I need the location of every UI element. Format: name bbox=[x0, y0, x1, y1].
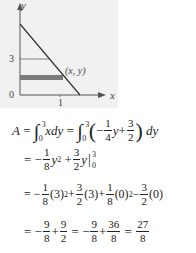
equals: = bbox=[67, 123, 74, 139]
evaluation-bar: |30 bbox=[88, 152, 91, 168]
differential: dy bbox=[146, 123, 158, 139]
denominator: 8 bbox=[91, 232, 97, 244]
region-graph: y x 0 3 1 (x, y) bbox=[0, 0, 118, 108]
minus: − bbox=[34, 187, 41, 202]
fraction: 18 bbox=[43, 147, 51, 172]
close-paren: ) bbox=[135, 120, 142, 142]
area-symbol: A bbox=[12, 123, 20, 139]
equals: = bbox=[125, 224, 132, 240]
denominator: 2 bbox=[77, 195, 83, 207]
minus: − bbox=[133, 187, 140, 202]
plus: + bbox=[64, 152, 71, 168]
strip bbox=[20, 75, 63, 80]
y-axis-label: y bbox=[21, 0, 26, 11]
numerator: 9 bbox=[90, 219, 98, 232]
denominator: 8 bbox=[44, 232, 50, 244]
denominator: 4 bbox=[105, 131, 111, 143]
origin-label: 0 bbox=[9, 90, 14, 100]
equals: = bbox=[24, 152, 31, 168]
numerator: 1 bbox=[42, 182, 50, 195]
plus: + bbox=[51, 224, 58, 240]
upper-limit: 3 bbox=[42, 121, 46, 129]
fraction: 18 bbox=[42, 182, 50, 207]
term: (0) bbox=[149, 187, 163, 202]
numerator: 1 bbox=[106, 182, 114, 195]
fraction: 92 bbox=[60, 219, 68, 244]
fraction: 32 bbox=[127, 118, 135, 143]
equals: = bbox=[24, 224, 31, 240]
fraction: 18 bbox=[106, 182, 114, 207]
upper-limit: 3 bbox=[92, 150, 96, 159]
numerator: 1 bbox=[104, 118, 112, 131]
upper-limit: 3 bbox=[85, 121, 89, 129]
equals: = bbox=[24, 187, 31, 202]
denominator: 2 bbox=[74, 160, 80, 172]
lower-limit: 0 bbox=[82, 135, 86, 143]
numerator: 9 bbox=[60, 219, 68, 232]
open-paren: ( bbox=[89, 120, 96, 142]
fraction: 98 bbox=[43, 219, 51, 244]
plus: + bbox=[68, 187, 75, 202]
equation-line-1: A = ∫30 xdy = ∫30 ( − 14 y + 32 ) dy bbox=[12, 118, 158, 143]
minus: − bbox=[82, 224, 89, 240]
fraction: 98 bbox=[90, 219, 98, 244]
minus: − bbox=[35, 152, 42, 168]
denominator: 8 bbox=[140, 232, 146, 244]
lower-limit: 0 bbox=[39, 135, 43, 143]
denominator: 8 bbox=[43, 195, 49, 207]
fraction: 32 bbox=[76, 182, 84, 207]
boundary-line bbox=[20, 24, 80, 95]
equation-line-3: = − 18 (3)2 + 32 (3) + 18 (0)2 − 32 (0) bbox=[24, 182, 163, 207]
exponent: 2 bbox=[57, 155, 61, 164]
fraction: 14 bbox=[104, 118, 112, 143]
integral-sign: ∫30 bbox=[77, 121, 82, 141]
plus: + bbox=[119, 123, 126, 139]
numerator: 3 bbox=[140, 182, 148, 195]
denominator: 8 bbox=[111, 232, 117, 244]
point-label: (x, y) bbox=[65, 66, 86, 76]
denominator: 2 bbox=[128, 131, 134, 143]
graph-svg bbox=[0, 0, 118, 108]
equals: = bbox=[23, 123, 30, 139]
x-tick-label: 1 bbox=[58, 98, 63, 108]
numerator: 9 bbox=[43, 219, 51, 232]
plus: + bbox=[98, 187, 105, 202]
fraction: 32 bbox=[73, 147, 81, 172]
equation-line-2: = − 18 y2 + 32 y |30 bbox=[24, 147, 91, 172]
minus: − bbox=[96, 123, 103, 139]
term: (0) bbox=[115, 187, 129, 202]
integrand: xdy bbox=[45, 123, 63, 139]
numerator: 1 bbox=[43, 147, 51, 160]
numerator: 27 bbox=[136, 219, 149, 232]
term: (3) bbox=[84, 187, 98, 202]
denominator: 2 bbox=[141, 195, 147, 207]
numerator: 36 bbox=[107, 219, 120, 232]
equals: = bbox=[72, 224, 79, 240]
term: (3) bbox=[50, 187, 64, 202]
numerator: 3 bbox=[73, 147, 81, 160]
numerator: 3 bbox=[76, 182, 84, 195]
minus: − bbox=[35, 224, 42, 240]
lower-limit: 0 bbox=[92, 161, 96, 170]
plus: + bbox=[99, 224, 106, 240]
y-tick-label: 3 bbox=[9, 54, 14, 64]
x-axis-label: x bbox=[110, 90, 115, 101]
result-fraction: 278 bbox=[136, 219, 149, 244]
fraction: 32 bbox=[140, 182, 148, 207]
equation-line-4: = − 98 + 92 = − 98 + 368 = 278 bbox=[24, 219, 150, 244]
denominator: 2 bbox=[61, 232, 67, 244]
x-axis-arrow-icon bbox=[98, 92, 106, 98]
denominator: 8 bbox=[44, 160, 50, 172]
fraction: 368 bbox=[107, 219, 120, 244]
numerator: 3 bbox=[127, 118, 135, 131]
variable: y bbox=[81, 152, 87, 168]
integral-sign: ∫30 bbox=[34, 121, 39, 141]
denominator: 8 bbox=[107, 195, 113, 207]
